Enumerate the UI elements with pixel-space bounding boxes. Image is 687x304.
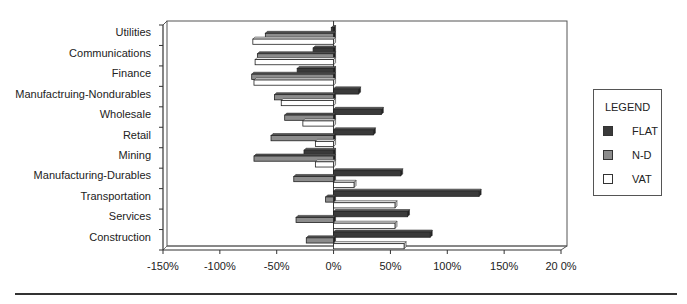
bar-n-d [296,215,336,222]
bar-flat [334,107,384,114]
bar-n-d [306,236,335,243]
legend-item-n-d: N-D [603,150,659,162]
legend-item-vat: VAT [603,174,659,186]
tick-label: -150% [147,260,179,272]
category-label: Manufacturing-Durables [34,169,152,181]
bar-vat [334,201,397,208]
category-label: Wholesale [100,108,151,120]
bar-vat [255,58,335,65]
category-label: Mining [119,149,151,161]
tick-label: 150% [490,260,518,272]
category-label: Services [109,210,152,222]
tick-label: -50% [264,260,290,272]
bar-flat [334,87,361,94]
tick-label: 100% [433,260,461,272]
bar-vat [334,242,407,249]
bar-vat [281,98,335,105]
category-label: Transportation [80,190,151,202]
bar-n-d [326,195,336,202]
divider-line [15,293,677,295]
legend-swatch-flat [603,126,613,136]
bar-flat [334,210,410,217]
tick-label: 20 0% [545,260,576,272]
legend-label: FLAT [632,125,658,137]
tick-label: 0% [326,260,342,272]
bar-vat [254,78,336,85]
bar-flat [334,128,376,135]
category-label: Communications [69,47,151,59]
legend-label: N-D [632,149,652,161]
bar-vat [253,37,336,44]
category-label: Construction [89,231,151,243]
tick-label: -100% [204,260,236,272]
value-axis: -150%-100%-50%0%50%100%150%20 0% [147,246,577,272]
legend-swatch-n-d [603,150,613,160]
category-axis: UtilitiesCommunicationsFinanceManufactru… [15,25,163,250]
category-label: Retail [123,129,151,141]
category-label: Finance [112,67,151,79]
legend-label: VAT [632,173,652,185]
bar-vat [334,180,356,187]
bar-flat [334,230,433,237]
tick-label: 50% [379,260,401,272]
bar-vat [315,139,335,146]
bar-vat [334,221,397,228]
bar-series [252,26,481,249]
bar-flat [334,169,403,176]
legend-title: LEGEND [594,101,661,113]
bar-n-d [294,174,336,181]
legend-swatch-vat [603,174,613,184]
bar-vat [315,160,335,167]
legend: LEGEND FLAT N-D VAT [593,89,662,196]
bar-flat [334,189,482,196]
bar-chart: UtilitiesCommunicationsFinanceManufactru… [0,0,687,304]
category-label: Utilities [116,26,152,38]
category-label: Manufactruing-Nondurables [15,88,151,100]
bar-vat [303,119,336,126]
legend-item-flat: FLAT [603,126,659,138]
